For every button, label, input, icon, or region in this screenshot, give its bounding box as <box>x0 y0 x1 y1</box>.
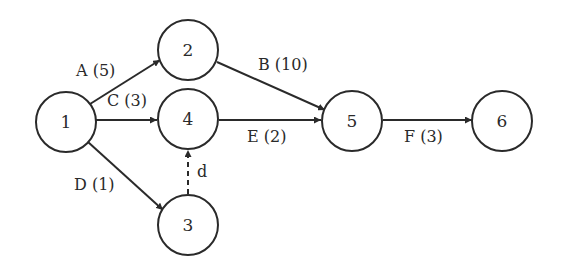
edge-label-a: A (5) <box>75 61 115 80</box>
node-2: 2 <box>158 20 218 80</box>
edge-label-c: C (3) <box>107 91 147 110</box>
node-3-label: 3 <box>183 215 194 235</box>
node-6: 6 <box>472 91 532 151</box>
node-1: 1 <box>36 92 96 152</box>
activity-network-diagram: A (5) C (3) D (1) d B (10) E (2) F (3) 1… <box>0 0 561 269</box>
node-2-label: 2 <box>183 40 194 60</box>
edge-label-d: D (1) <box>74 175 115 194</box>
node-4: 4 <box>158 89 218 149</box>
node-5-label: 5 <box>347 111 358 131</box>
edge-label-b: B (10) <box>258 55 308 74</box>
node-6-label: 6 <box>497 111 508 131</box>
node-3: 3 <box>158 195 218 255</box>
node-4-label: 4 <box>183 109 194 129</box>
edge-label-f: F (3) <box>404 127 443 146</box>
edge-label-dummy: d <box>197 162 207 181</box>
edge-label-e: E (2) <box>247 127 286 146</box>
node-1-label: 1 <box>61 112 72 132</box>
node-5: 5 <box>322 91 382 151</box>
